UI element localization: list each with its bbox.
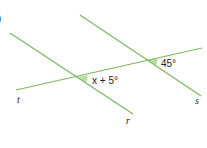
parallel-lines-diagram: ) x + 5° 45° t r s <box>0 0 207 148</box>
label-t: t <box>17 94 20 105</box>
label-s: s <box>195 95 199 106</box>
angle-label-upper: 45° <box>161 58 176 69</box>
line-r <box>10 33 133 114</box>
label-r: r <box>126 115 130 126</box>
angle-label-lower: x + 5° <box>92 75 118 86</box>
part-marker: ) <box>0 10 1 25</box>
